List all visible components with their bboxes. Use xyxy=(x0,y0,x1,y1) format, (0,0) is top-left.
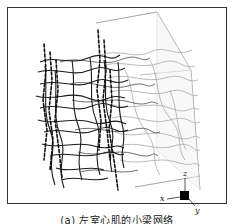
x-axis-line xyxy=(167,197,180,199)
fiber-network-figure: z x y xyxy=(0,0,234,224)
x-axis-label: x xyxy=(160,194,165,203)
origin-cube-icon xyxy=(180,191,189,200)
y-axis-line xyxy=(189,199,195,206)
figure-caption: (a) 左室心肌的小梁网络 xyxy=(0,212,234,224)
z-axis-label: z xyxy=(182,169,188,178)
